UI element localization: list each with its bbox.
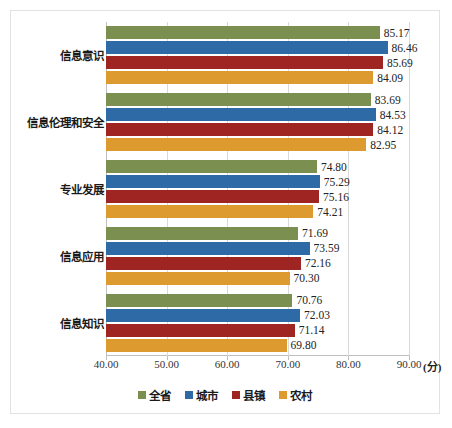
x-tick-label-60.00: 60.00 (215, 358, 240, 370)
bar-value-label: 82.95 (366, 138, 396, 150)
bar-row: 74.21 (106, 205, 409, 218)
bar-row: 85.69 (106, 56, 409, 69)
bar-全省-信息知识[interactable] (106, 294, 292, 307)
legend-swatch-icon (138, 391, 146, 399)
bar-row: 84.53 (106, 108, 409, 121)
bar-value-label: 73.59 (310, 242, 340, 254)
bar-value-label: 85.17 (380, 27, 410, 39)
bar-value-label: 71.14 (295, 324, 325, 336)
x-tick-label-50.00: 50.00 (154, 358, 179, 370)
bar-group: 83.6984.5384.1282.95 (106, 93, 409, 153)
legend-item-县镇[interactable]: 县镇 (232, 387, 265, 403)
plot-area: 85.1786.4685.6984.0983.6984.5384.1282.95… (106, 22, 409, 356)
legend-label: 农村 (290, 387, 312, 403)
bar-group: 70.7672.0371.1469.80 (106, 294, 409, 354)
category-label-信息意识: 信息意识 (60, 47, 104, 63)
category-label-信息知识: 信息知识 (60, 315, 104, 331)
bar-value-label: 85.69 (383, 57, 413, 69)
bar-全省-信息意识[interactable] (106, 26, 380, 39)
bar-value-label: 70.76 (292, 294, 322, 306)
bar-value-label: 74.21 (313, 205, 343, 217)
bar-县镇-专业发展[interactable] (106, 190, 319, 203)
bar-value-label: 86.46 (388, 42, 418, 54)
bar-农村-信息意识[interactable] (106, 71, 373, 84)
bar-value-label: 72.16 (301, 257, 331, 269)
bar-group: 74.8075.2975.1674.21 (106, 160, 409, 220)
bar-value-label: 84.12 (373, 123, 403, 135)
legend-label: 县镇 (243, 387, 265, 403)
bar-value-label: 74.80 (317, 160, 347, 172)
bar-row: 75.29 (106, 175, 409, 188)
bar-城市-信息伦理和安全[interactable] (106, 108, 376, 121)
bar-value-label: 75.16 (319, 190, 349, 202)
bar-row: 74.80 (106, 160, 409, 173)
legend-swatch-icon (279, 391, 287, 399)
bar-row: 84.09 (106, 71, 409, 84)
x-tick-label-90.00: 90.00 (397, 358, 422, 370)
bar-row: 75.16 (106, 190, 409, 203)
legend-swatch-icon (232, 391, 240, 399)
bar-row: 72.03 (106, 309, 409, 322)
gridline-90.00 (409, 22, 410, 356)
bar-城市-专业发展[interactable] (106, 175, 320, 188)
legend-item-农村[interactable]: 农村 (279, 387, 312, 403)
bar-group: 85.1786.4685.6984.09 (106, 26, 409, 86)
bar-县镇-信息应用[interactable] (106, 257, 301, 270)
bar-row: 73.59 (106, 242, 409, 255)
bar-农村-信息应用[interactable] (106, 272, 290, 285)
bar-农村-信息伦理和安全[interactable] (106, 138, 366, 151)
category-label-信息伦理和安全: 信息伦理和安全 (27, 114, 104, 130)
bar-全省-信息伦理和安全[interactable] (106, 93, 371, 106)
chart-frame: 信息意识信息伦理和安全专业发展信息应用信息知识 85.1786.4685.698… (10, 10, 440, 414)
bar-农村-信息知识[interactable] (106, 339, 287, 352)
bar-城市-信息应用[interactable] (106, 242, 310, 255)
bar-row: 71.14 (106, 324, 409, 337)
bar-row: 82.95 (106, 138, 409, 151)
bar-row: 85.17 (106, 26, 409, 39)
bar-县镇-信息伦理和安全[interactable] (106, 123, 373, 136)
bar-城市-信息知识[interactable] (106, 309, 300, 322)
bar-value-label: 70.30 (290, 272, 320, 284)
bar-value-label: 84.53 (376, 108, 406, 120)
bar-row: 84.12 (106, 123, 409, 136)
bar-value-label: 72.03 (300, 309, 330, 321)
bar-农村-专业发展[interactable] (106, 205, 313, 218)
chart-legend: 全省城市县镇农村 (11, 387, 439, 403)
legend-swatch-icon (185, 391, 193, 399)
legend-label: 城市 (196, 387, 218, 403)
bar-row: 69.80 (106, 339, 409, 352)
x-axis-labels: 40.0050.0060.0070.0080.0090.00(分) (11, 358, 439, 376)
bar-value-label: 75.29 (320, 175, 350, 187)
bar-城市-信息意识[interactable] (106, 41, 388, 54)
bar-value-label: 83.69 (371, 93, 401, 105)
legend-item-全省[interactable]: 全省 (138, 387, 171, 403)
bar-县镇-信息意识[interactable] (106, 56, 383, 69)
x-axis-line (106, 355, 409, 356)
bar-row: 71.69 (106, 227, 409, 240)
bar-group: 71.6973.5972.1670.30 (106, 227, 409, 287)
bar-value-label: 69.80 (287, 339, 317, 351)
bar-县镇-信息知识[interactable] (106, 324, 295, 337)
bar-value-label: 84.09 (373, 72, 403, 84)
x-axis-unit-label: (分) (423, 358, 441, 374)
x-tick-label-70.00: 70.00 (275, 358, 300, 370)
bar-value-label: 71.69 (298, 227, 328, 239)
legend-item-城市[interactable]: 城市 (185, 387, 218, 403)
x-tick-label-80.00: 80.00 (336, 358, 361, 370)
legend-label: 全省 (149, 387, 171, 403)
bar-全省-专业发展[interactable] (106, 160, 317, 173)
bar-row: 83.69 (106, 93, 409, 106)
bar-row: 72.16 (106, 257, 409, 270)
x-tick-label-40.00: 40.00 (94, 358, 119, 370)
bar-全省-信息应用[interactable] (106, 227, 298, 240)
category-label-专业发展: 专业发展 (60, 181, 104, 197)
bar-row: 86.46 (106, 41, 409, 54)
category-label-信息应用: 信息应用 (60, 248, 104, 264)
bar-row: 70.76 (106, 294, 409, 307)
category-axis-labels: 信息意识信息伦理和安全专业发展信息应用信息知识 (11, 22, 104, 356)
bar-row: 70.30 (106, 272, 409, 285)
